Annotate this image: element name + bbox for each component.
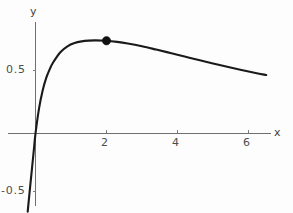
data-curve — [28, 40, 267, 211]
x-axis-tick-label-6: 6 — [243, 137, 251, 148]
maximum-point-marker — [102, 37, 110, 45]
y-axis-tick-label-0.5: 0.5 — [6, 64, 26, 75]
x-axis-tick-label-4: 4 — [172, 137, 180, 148]
y-axis-tick-label-neg-0.5: -0.5 — [1, 185, 26, 196]
x-axis-name-label: x — [274, 127, 281, 138]
x-axis-tick-label-2: 2 — [101, 137, 109, 148]
y-axis-name-label: y — [30, 6, 37, 17]
plot-figure: 0.5 -0.5 2 4 6 y x — [0, 0, 293, 213]
plot-canvas — [0, 0, 293, 213]
